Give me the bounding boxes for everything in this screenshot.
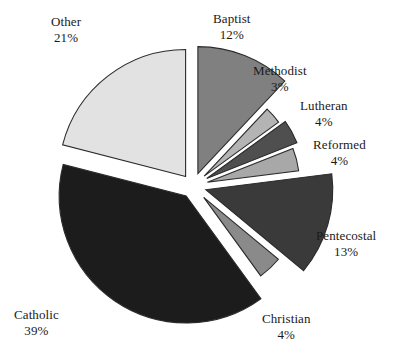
pie-label-baptist: Baptist12%	[213, 11, 251, 43]
pie-label-name: Baptist	[213, 11, 251, 26]
pie-label-lutheran: Lutheran4%	[300, 98, 348, 130]
pie-label-percent: 4%	[313, 153, 366, 169]
pie-label-name: Other	[51, 14, 81, 29]
pie-label-name: Pentecostal	[316, 228, 376, 243]
pie-label-percent: 39%	[14, 323, 59, 339]
pie-label-name: Lutheran	[300, 98, 348, 113]
pie-label-name: Methodist	[253, 63, 307, 78]
pie-label-percent: 4%	[300, 114, 348, 130]
pie-label-methodist: Methodist3%	[253, 63, 307, 95]
pie-label-name: Reformed	[313, 137, 366, 152]
pie-label-name: Christian	[262, 311, 311, 326]
pie-label-percent: 12%	[213, 27, 251, 43]
pie-label-percent: 3%	[253, 79, 307, 95]
pie-label-other: Other21%	[51, 14, 81, 46]
pie-chart-canvas	[0, 0, 396, 357]
pie-label-percent: 13%	[316, 244, 376, 260]
pie-label-name: Catholic	[14, 307, 59, 322]
pie-label-christian: Christian4%	[262, 311, 311, 343]
pie-label-pentecostal: Pentecostal13%	[316, 228, 376, 260]
pie-label-percent: 4%	[262, 327, 311, 343]
pie-slice-other[interactable]	[63, 49, 186, 176]
pie-label-percent: 21%	[51, 30, 81, 46]
pie-label-reformed: Reformed4%	[313, 137, 366, 169]
pie-label-catholic: Catholic39%	[14, 307, 59, 339]
pie-chart: Baptist12%Methodist3%Lutheran4%Reformed4…	[0, 0, 396, 357]
